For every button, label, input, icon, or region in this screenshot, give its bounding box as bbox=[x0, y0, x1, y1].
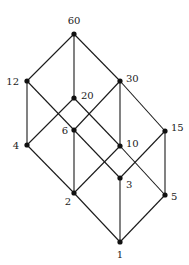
edge-10-2 bbox=[74, 146, 120, 193]
node-6 bbox=[71, 127, 76, 132]
node-4 bbox=[24, 142, 29, 147]
edge-6-3 bbox=[74, 130, 120, 178]
hasse-diagram: 601230206154103251 bbox=[0, 0, 189, 265]
edge-60-12 bbox=[27, 34, 74, 81]
node-label-6: 6 bbox=[62, 125, 68, 136]
node-2 bbox=[71, 190, 76, 195]
node-20 bbox=[71, 95, 76, 100]
node-60 bbox=[71, 31, 76, 36]
nodes-group bbox=[24, 31, 167, 244]
node-label-30: 30 bbox=[126, 73, 139, 84]
node-label-15: 15 bbox=[171, 122, 184, 133]
node-1 bbox=[117, 239, 122, 244]
node-label-20: 20 bbox=[81, 90, 94, 101]
node-12 bbox=[24, 78, 29, 83]
node-label-1: 1 bbox=[117, 249, 123, 260]
edge-30-15 bbox=[120, 81, 165, 131]
node-label-60: 60 bbox=[68, 15, 81, 26]
node-label-10: 10 bbox=[126, 138, 139, 149]
node-label-12: 12 bbox=[6, 76, 19, 87]
labels-group: 601230206154103251 bbox=[6, 15, 183, 260]
edge-60-30 bbox=[74, 34, 120, 81]
node-10 bbox=[117, 143, 122, 148]
node-label-4: 4 bbox=[13, 140, 19, 151]
node-label-2: 2 bbox=[65, 196, 71, 207]
edge-5-1 bbox=[120, 195, 165, 242]
edges-group bbox=[27, 34, 165, 242]
node-label-3: 3 bbox=[126, 179, 132, 190]
node-label-5: 5 bbox=[171, 191, 177, 202]
edge-2-1 bbox=[74, 193, 120, 242]
node-3 bbox=[117, 175, 122, 180]
node-15 bbox=[162, 128, 167, 133]
node-30 bbox=[117, 78, 122, 83]
edge-4-2 bbox=[27, 145, 74, 193]
node-5 bbox=[162, 192, 167, 197]
